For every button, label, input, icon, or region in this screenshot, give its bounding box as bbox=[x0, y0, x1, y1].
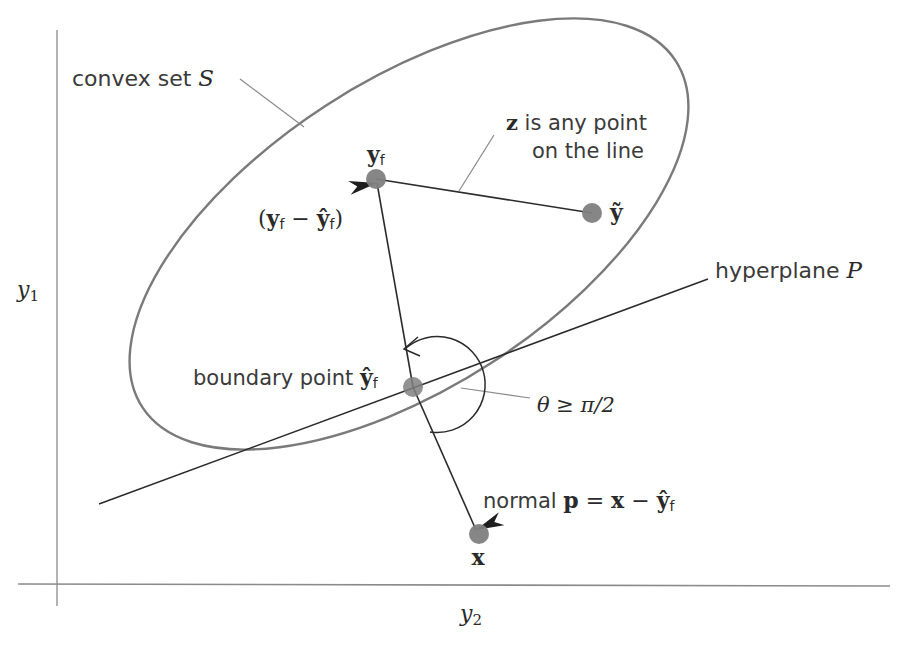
vector-yf-minus-yhatf bbox=[377, 183, 413, 387]
normal-vector-p bbox=[413, 387, 476, 530]
horizontal-axis bbox=[18, 584, 890, 586]
point-x bbox=[469, 524, 489, 544]
z-label-line1: z is any point bbox=[506, 110, 647, 135]
point-y-f bbox=[366, 169, 386, 189]
hyperplane-line bbox=[99, 279, 708, 504]
normal-label: normal p = x − ŷf bbox=[483, 487, 675, 514]
point-y-tilde bbox=[582, 203, 602, 223]
x-point-label: x bbox=[471, 544, 485, 570]
theta-label: θ ≥ π/2 bbox=[537, 393, 615, 417]
z-leader bbox=[459, 135, 494, 191]
point-y-hat-f bbox=[403, 377, 423, 397]
segment-yf-ytilde bbox=[376, 179, 592, 213]
convex-set-label: convex set S bbox=[72, 65, 214, 91]
convex-set-diagram: convex set S z is any point on the line … bbox=[0, 0, 903, 646]
convex-set-leader bbox=[240, 79, 304, 127]
boundary-point-label: boundary point ŷf bbox=[193, 364, 379, 391]
theta-leader bbox=[461, 388, 530, 398]
difference-vector-label: (yf − ŷf) bbox=[258, 205, 343, 232]
y-tilde-label: ỹ bbox=[609, 199, 624, 225]
hyperplane-label: hyperplane P bbox=[715, 257, 863, 283]
y1-axis-label: y1 bbox=[16, 277, 39, 305]
z-label-line2: on the line bbox=[532, 139, 644, 163]
y-f-label: yf bbox=[366, 141, 386, 168]
y2-axis-label: y2 bbox=[459, 601, 482, 629]
